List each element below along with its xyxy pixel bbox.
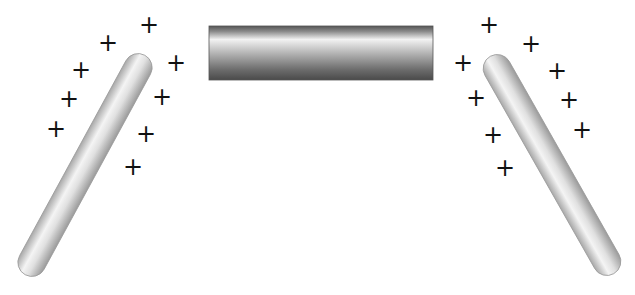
positive-charge-icon: + <box>136 120 156 148</box>
positive-charge-icon: + <box>166 49 186 77</box>
positive-charge-icon: + <box>98 29 118 57</box>
charged-rods-diagram: +++++++++ +++++++++ <box>0 0 635 295</box>
positive-charge-icon: + <box>466 84 486 112</box>
center-bar <box>209 26 433 80</box>
positive-charge-icon: + <box>139 11 159 39</box>
positive-charge-icon: + <box>59 85 79 113</box>
positive-charge-icon: + <box>152 83 172 111</box>
positive-charge-icon: + <box>71 56 91 84</box>
positive-charge-icon: + <box>547 57 567 85</box>
positive-charge-icon: + <box>521 30 541 58</box>
positive-charge-icon: + <box>123 153 143 181</box>
positive-charge-icon: + <box>479 11 499 39</box>
positive-charge-icon: + <box>495 154 515 182</box>
positive-charge-icon: + <box>572 116 592 144</box>
positive-charge-icon: + <box>46 115 66 143</box>
positive-charge-icon: + <box>559 86 579 114</box>
positive-charge-icon: + <box>483 121 503 149</box>
positive-charge-icon: + <box>453 49 473 77</box>
